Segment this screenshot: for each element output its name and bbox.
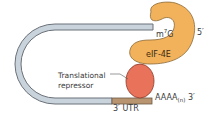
polya-label: AAAA(n) 3′: [155, 94, 195, 104]
translational-repressor: [126, 64, 154, 98]
cap-label: m7G: [156, 29, 174, 39]
eif4e-label: eIF-4E: [146, 51, 171, 59]
diagram: m7G 5′ eIF-4E Translational repressor AA…: [0, 0, 217, 128]
five-prime-label: 5′: [197, 29, 204, 37]
repressor-label: Translational repressor: [58, 71, 106, 91]
repressor-leader-line: [110, 74, 128, 79]
utr-label: 3′ UTR: [113, 105, 139, 113]
diagram-graphics: [0, 0, 217, 128]
repressor-label-line2: repressor: [58, 81, 106, 91]
repressor-label-line1: Translational: [58, 71, 106, 81]
